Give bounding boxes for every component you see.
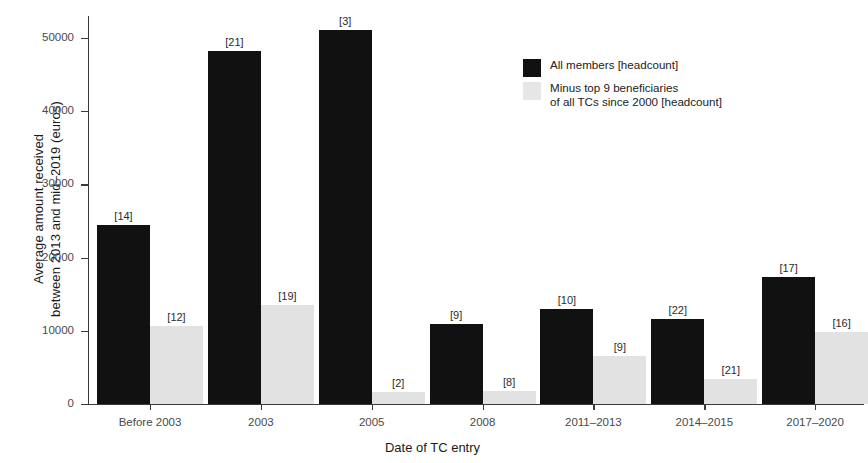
x-tick-label: 2003 [248, 416, 274, 428]
bar-value-label: [12] [167, 311, 185, 323]
x-tick-label: 2014–2015 [676, 416, 734, 428]
x-tick-mark [372, 404, 373, 410]
y-tick-label: 50000 [42, 31, 74, 43]
x-tick-mark [593, 404, 594, 410]
bar [430, 324, 483, 404]
bar [150, 326, 203, 404]
bar-value-label: [21] [225, 36, 243, 48]
bar-value-label: [8] [503, 376, 515, 388]
legend: All members [headcount] Minus top 9 bene… [523, 58, 783, 113]
x-tick-label: 2017–2020 [786, 416, 844, 428]
bar [97, 225, 150, 404]
bar-value-label: [3] [339, 15, 351, 27]
x-axis-line [88, 404, 864, 405]
y-tick-mark [81, 38, 88, 39]
bar [319, 30, 372, 404]
y-tick-mark [81, 111, 88, 112]
bar [651, 319, 704, 404]
legend-entry: Minus top 9 beneficiaries of all TCs sin… [523, 81, 783, 109]
x-tick-label: 2008 [470, 416, 496, 428]
y-tick-label: 0 [68, 397, 74, 409]
bar [815, 332, 868, 405]
bar-value-label: [19] [278, 290, 296, 302]
legend-entry: All members [headcount] [523, 58, 783, 77]
bar-value-label: [2] [392, 377, 404, 389]
bar [540, 309, 593, 404]
y-tick-mark [81, 258, 88, 259]
y-tick-mark [81, 331, 88, 332]
x-tick-label: Before 2003 [119, 416, 182, 428]
legend-swatch-all-members [523, 59, 541, 77]
legend-label-all-members: All members [headcount] [550, 58, 678, 72]
bar [372, 392, 425, 404]
bar-value-label: [21] [722, 364, 740, 376]
bar-value-label: [22] [669, 304, 687, 316]
legend-swatch-minus-top9 [523, 82, 541, 100]
y-tick-label: 40000 [42, 104, 74, 116]
x-tick-mark [815, 404, 816, 410]
bar [593, 356, 646, 404]
bar [483, 391, 536, 404]
x-axis-title: Date of TC entry [0, 440, 865, 455]
y-tick-mark [81, 404, 88, 405]
bar-value-label: [10] [558, 294, 576, 306]
bar [762, 277, 815, 404]
y-tick-mark [81, 184, 88, 185]
bar-value-label: [17] [779, 262, 797, 274]
bar [208, 51, 261, 404]
bar-value-label: [9] [450, 309, 462, 321]
x-tick-mark [150, 404, 151, 410]
x-tick-mark [704, 404, 705, 410]
x-tick-label: 2005 [359, 416, 385, 428]
x-tick-mark [261, 404, 262, 410]
bar [704, 379, 757, 404]
x-tick-mark [483, 404, 484, 410]
bar-value-label: [9] [614, 341, 626, 353]
bar [261, 305, 314, 404]
y-tick-label: 10000 [42, 324, 74, 336]
x-tick-label: 2011–2013 [565, 416, 622, 428]
bar-value-label: [14] [114, 210, 132, 222]
bar-value-label: [16] [832, 317, 850, 329]
y-tick-label: 30000 [42, 177, 74, 189]
legend-label-minus-top9: Minus top 9 beneficiaries of all TCs sin… [550, 81, 722, 109]
y-tick-label: 20000 [42, 251, 74, 263]
